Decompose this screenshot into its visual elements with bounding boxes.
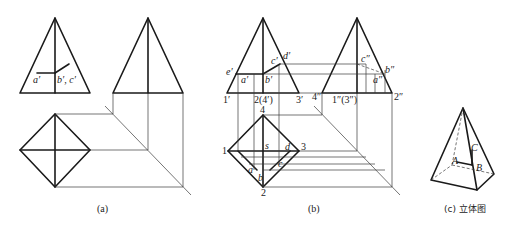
label-d-prime: d′ — [283, 50, 291, 61]
panel-a-top-view — [20, 114, 90, 187]
panel-a: a′ b′, c′ (a) — [20, 18, 191, 215]
label-A: A — [451, 155, 459, 166]
label-b: b — [258, 172, 263, 183]
label-c-prime: c′ — [271, 55, 278, 66]
label-s: s — [265, 140, 269, 151]
label-1-prime: 1′ — [223, 94, 230, 105]
panel-a-front-view: a′ b′, c′ — [20, 18, 90, 93]
label-3: 3 — [301, 141, 306, 152]
label-a-prime-b: a′ — [241, 74, 249, 85]
panel-b-side-view: c″ b″ a″ 4″ 1″(3″) 2″ — [312, 18, 403, 106]
caption-b: (b) — [308, 203, 320, 215]
label-bc-prime: b′, c′ — [57, 74, 77, 85]
caption-a: (a) — [97, 203, 108, 215]
label-4: 4 — [260, 104, 265, 115]
label-2: 2 — [261, 187, 266, 198]
label-a-prime: a′ — [33, 74, 41, 85]
label-a: a — [248, 164, 253, 175]
panel-a-side-view — [113, 18, 183, 93]
label-b-double-prime: b″ — [385, 64, 395, 75]
label-C: C — [471, 142, 478, 153]
panel-a-projection-lines — [55, 93, 191, 195]
label-2-double-prime: 2″ — [394, 91, 403, 102]
label-1-3-double-prime: 1″(3″) — [332, 94, 357, 106]
label-c-double-prime: c″ — [361, 53, 370, 64]
label-b-prime: b′ — [265, 74, 273, 85]
panel-b-front-view: e′ a′ b′ c′ d′ 1′ 2(4′) 3′ — [223, 18, 303, 106]
label-a-double-prime: a″ — [373, 74, 383, 85]
panel-b: e′ a′ b′ c′ d′ 1′ 2(4′) 3′ c″ b″ a″ 4″ 1… — [222, 18, 403, 215]
panel-c-3d-view: A B C (c) 立体图 — [431, 108, 494, 214]
panel-b-top-view: 1 2 3 4 s d a b c — [222, 104, 306, 198]
label-e-prime: e′ — [226, 66, 233, 77]
label-B: B — [476, 162, 482, 173]
figure-canvas: a′ b′, c′ (a) — [0, 0, 516, 230]
caption-c: (c) 立体图 — [444, 203, 486, 214]
label-3-prime: 3′ — [296, 94, 303, 105]
label-1: 1 — [222, 145, 227, 156]
